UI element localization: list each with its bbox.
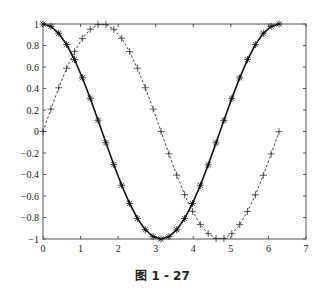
y-tick-label: 0.6 bbox=[27, 62, 40, 73]
x-tick-label: 2 bbox=[116, 243, 121, 254]
plot-axes: 01234567−1−0.8−0.6−0.4−0.200.20.40.60.81 bbox=[21, 19, 309, 255]
x-tick-label: 0 bbox=[41, 243, 46, 254]
figure-caption: 图 1 - 27 bbox=[0, 266, 325, 283]
x-tick-label: 3 bbox=[153, 243, 158, 254]
x-tick-label: 7 bbox=[304, 243, 309, 254]
series-sinx bbox=[40, 21, 283, 242]
x-tick-label: 6 bbox=[266, 243, 271, 254]
x-tick-label: 5 bbox=[228, 243, 233, 254]
y-tick-label: −0.4 bbox=[21, 169, 39, 180]
x-tick-label: 1 bbox=[78, 243, 83, 254]
y-tick-label: 1 bbox=[34, 19, 39, 30]
y-tick-label: −0.6 bbox=[21, 191, 39, 202]
y-tick-label: 0.4 bbox=[27, 83, 40, 94]
chart: 01234567−1−0.8−0.6−0.4−0.200.20.40.60.81 bbox=[0, 0, 325, 289]
y-tick-label: −0.8 bbox=[21, 212, 39, 223]
plot-series bbox=[40, 21, 283, 243]
y-tick-label: −1 bbox=[28, 234, 39, 245]
x-tick-label: 4 bbox=[191, 243, 196, 254]
axes-frame bbox=[43, 24, 306, 239]
y-tick-label: 0 bbox=[34, 126, 39, 137]
y-tick-label: −0.2 bbox=[21, 148, 39, 159]
y-tick-label: 0.8 bbox=[27, 40, 40, 51]
y-tick-label: 0.2 bbox=[27, 105, 40, 116]
